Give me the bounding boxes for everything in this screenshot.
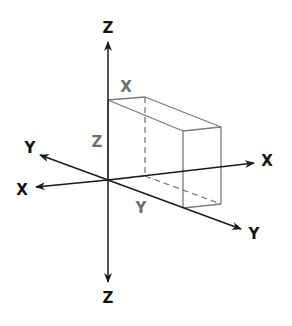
box-width-label: X	[120, 78, 132, 96]
box-height-label: Z	[92, 133, 103, 151]
box-top-right-edge	[145, 97, 221, 127]
box-depth-label: Y	[135, 199, 148, 217]
z-bottom-label: Z	[103, 289, 114, 307]
x-axis-positive	[108, 163, 254, 180]
y-negative-label: Y	[24, 139, 37, 157]
box-top-front-edge	[183, 127, 221, 131]
x-positive-label: X	[261, 152, 273, 170]
diagram-svg: Z Z X X Y Y X Z Y	[0, 0, 292, 326]
box-top-back-edge	[108, 97, 145, 100]
box-top-left-edge	[108, 100, 183, 131]
z-top-label: Z	[103, 19, 114, 37]
rectangular-box	[108, 97, 221, 208]
x-negative-label: X	[16, 181, 28, 199]
x-axis-negative	[36, 180, 108, 187]
axes-diagram: Z Z X X Y Y X Z Y	[0, 0, 292, 326]
y-axis-negative	[40, 155, 108, 180]
box-front-bottom-edge	[183, 204, 221, 208]
y-positive-label: Y	[248, 225, 261, 243]
